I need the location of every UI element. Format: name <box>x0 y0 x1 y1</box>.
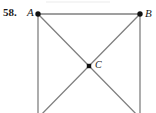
vertex-marker-c <box>87 64 91 68</box>
figure-lines <box>36 14 142 113</box>
point-label-b: B <box>145 8 152 19</box>
point-label-a: A <box>27 7 34 18</box>
point-label-c: C <box>95 60 102 70</box>
exercise-number-label: 58. <box>3 7 17 18</box>
diagonal-b-to-bottom-left-line <box>36 14 140 113</box>
vertex-marker-a <box>35 11 40 16</box>
figure-container: 58. A B C <box>0 0 156 113</box>
square-with-diagonals-figure <box>0 0 156 113</box>
diagonal-a-to-bottom-right-line <box>38 14 142 113</box>
vertex-marker-b <box>137 11 142 16</box>
figure-vertex-markers <box>35 11 142 68</box>
